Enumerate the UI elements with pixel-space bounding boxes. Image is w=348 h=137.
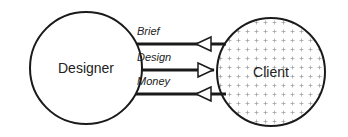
client-label: Client	[253, 65, 289, 79]
designer-label: Designer	[58, 61, 114, 75]
arrow-right-icon	[198, 63, 213, 77]
flow-label-money: Money	[137, 76, 170, 87]
diagram-canvas	[0, 0, 348, 137]
arrow-left-icon	[196, 37, 211, 51]
flow-brief	[128, 37, 226, 51]
flow-label-design: Design	[137, 52, 171, 63]
arrow-left-icon	[196, 87, 211, 101]
flow-label-brief: Brief	[137, 26, 160, 37]
flow-money	[128, 87, 226, 101]
